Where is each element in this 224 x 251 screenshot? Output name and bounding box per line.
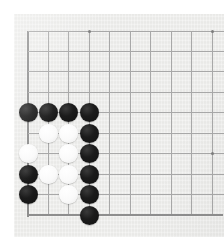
stone-white-c1-r7[interactable] — [19, 144, 38, 163]
stone-white-c3-r7[interactable] — [59, 144, 78, 163]
stone-black-c4-r7[interactable] — [80, 144, 99, 163]
go-board-screenshot — [0, 0, 224, 251]
stone-black-c1-r5[interactable] — [19, 103, 38, 122]
stone-black-c3-r5[interactable] — [59, 103, 78, 122]
stone-white-c3-r8[interactable] — [59, 165, 78, 184]
stone-black-c4-r8[interactable] — [80, 165, 99, 184]
stone-black-c1-r9[interactable] — [19, 185, 38, 204]
stone-black-c4-r5[interactable] — [80, 103, 99, 122]
stone-black-c4-r6[interactable] — [80, 124, 99, 143]
stone-white-c3-r9[interactable] — [59, 185, 78, 204]
stone-black-c1-r8[interactable] — [19, 165, 38, 184]
stone-white-c2-r6[interactable] — [39, 124, 58, 143]
stone-layer[interactable] — [0, 0, 224, 251]
stone-white-c3-r6[interactable] — [59, 124, 78, 143]
stone-black-c4-r10[interactable] — [80, 206, 99, 225]
stone-black-c2-r5[interactable] — [39, 103, 58, 122]
stone-white-c2-r8[interactable] — [39, 165, 58, 184]
stone-black-c4-r9[interactable] — [80, 185, 99, 204]
